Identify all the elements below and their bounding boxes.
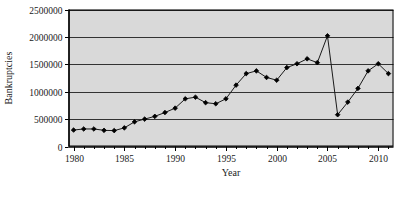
bankruptcies-line-chart: 0500000100000015000002000000250000019801… bbox=[0, 0, 405, 197]
x-axis-tick-label: 2005 bbox=[318, 154, 337, 164]
x-axis-tick-label: 1995 bbox=[217, 154, 236, 164]
y-axis-tick-label: 0 bbox=[58, 143, 63, 153]
plot-area-background bbox=[69, 10, 394, 147]
chart-canvas: 0500000100000015000002000000250000019801… bbox=[0, 0, 405, 197]
y-axis-tick-label: 1500000 bbox=[29, 60, 63, 70]
x-axis-tick-label: 1980 bbox=[65, 154, 84, 164]
y-axis-title: Bankruptcies bbox=[3, 52, 14, 105]
x-axis-tick-label: 1985 bbox=[115, 154, 134, 164]
x-axis-tick-label: 2010 bbox=[369, 154, 388, 164]
x-axis-title: Year bbox=[222, 167, 241, 178]
y-axis: 05000001000000150000020000002500000 bbox=[29, 6, 68, 153]
x-axis: 1980198519901995200020052010 bbox=[65, 147, 388, 164]
y-axis-tick-label: 500000 bbox=[34, 115, 63, 125]
x-axis-tick-label: 2000 bbox=[268, 154, 287, 164]
y-axis-tick-label: 2500000 bbox=[29, 6, 63, 16]
x-axis-tick-label: 1990 bbox=[166, 154, 185, 164]
y-axis-tick-label: 2000000 bbox=[29, 33, 63, 43]
y-axis-tick-label: 1000000 bbox=[29, 88, 63, 98]
